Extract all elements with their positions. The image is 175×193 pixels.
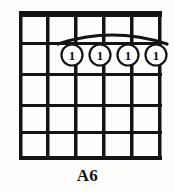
- fret-line-2: [19, 73, 162, 76]
- string-line-3: [102, 11, 106, 160]
- string-line-6: [19, 11, 23, 160]
- finger-marker-label: 1: [97, 48, 104, 63]
- finger-marker: 1: [62, 45, 83, 66]
- string-line-1: [158, 11, 162, 160]
- string-line-4: [74, 11, 78, 160]
- chord-name-label: A6: [0, 166, 175, 186]
- fretboard-graphic: 1 1 1 1: [0, 0, 175, 193]
- string-line-5: [46, 11, 50, 160]
- finger-marker: 1: [146, 45, 167, 66]
- finger-marker-label: 1: [153, 48, 160, 63]
- fret-line-5: [19, 156, 162, 160]
- finger-marker-label: 1: [125, 48, 132, 63]
- finger-marker: 1: [118, 45, 139, 66]
- fret-line-1: [19, 42, 162, 45]
- finger-marker: 1: [90, 45, 111, 66]
- fret-line-3: [19, 104, 162, 107]
- nut: [19, 11, 162, 17]
- fret-line-4: [19, 131, 162, 134]
- finger-marker-label: 1: [69, 48, 76, 63]
- chord-diagram: 1 1 1 1 A6: [0, 0, 175, 193]
- string-line-2: [130, 11, 134, 160]
